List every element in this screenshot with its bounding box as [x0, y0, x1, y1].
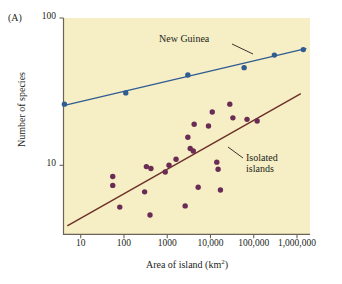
data-point-1-9	[173, 156, 178, 161]
y-tick-label-1: 100	[22, 11, 56, 21]
data-point-1-10	[182, 203, 187, 208]
data-point-0-5	[301, 47, 306, 52]
data-point-1-5	[148, 166, 153, 171]
data-point-1-24	[254, 118, 259, 123]
data-point-1-11	[185, 135, 190, 140]
data-point-1-19	[215, 167, 220, 172]
data-point-1-7	[163, 169, 168, 174]
x-tick-label-5: 1,000,000	[267, 238, 327, 248]
data-point-1-13	[191, 148, 196, 153]
data-point-1-21	[227, 101, 232, 106]
y-tick-label-0: 10	[22, 158, 56, 168]
data-point-1-1	[110, 183, 115, 188]
data-point-1-23	[244, 117, 249, 122]
data-point-1-14	[191, 122, 196, 127]
data-point-1-16	[206, 123, 211, 128]
data-point-1-2	[117, 204, 122, 209]
data-point-0-1	[123, 90, 128, 95]
data-point-0-2	[185, 72, 190, 77]
data-point-1-15	[195, 184, 200, 189]
data-point-1-22	[230, 115, 235, 120]
data-point-1-20	[218, 187, 223, 192]
data-point-1-18	[214, 159, 219, 164]
data-point-1-8	[166, 163, 171, 168]
annotation-isolated-islands-line1: Isolated	[246, 152, 278, 163]
data-point-1-17	[210, 109, 215, 114]
annotation-isolated-islands-line2: islands	[246, 163, 274, 174]
data-point-1-3	[142, 189, 147, 194]
data-point-0-3	[241, 65, 246, 70]
figure-panel-a: (A) Number of species Area of island (km…	[0, 0, 342, 284]
data-point-1-6	[147, 212, 152, 217]
data-point-1-0	[110, 174, 115, 179]
data-point-0-0	[62, 101, 67, 106]
data-point-0-4	[272, 52, 277, 57]
annotation-new-guinea: New Guinea	[159, 33, 209, 44]
plot-background	[63, 18, 310, 234]
